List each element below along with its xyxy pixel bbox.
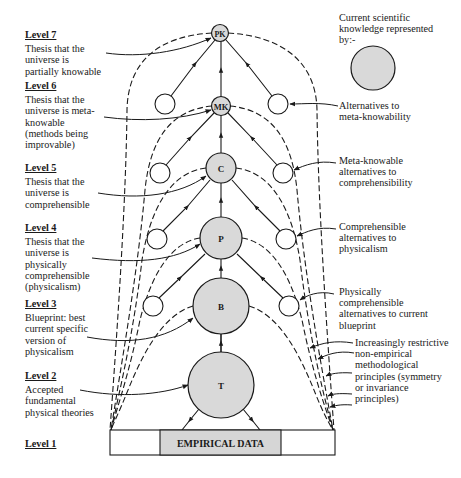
annotation-meta-knowable-alts: Meta-knowable alternatives to comprehens…	[339, 155, 417, 189]
node-label-p: P	[218, 234, 224, 244]
annotation-principles: Increasingly restrictive non-empirical m…	[355, 337, 450, 404]
legend-circle	[351, 46, 395, 90]
alt-circle-right-5	[273, 163, 293, 183]
level-title: Level 6	[25, 80, 105, 91]
level-description: Accepted fundamental physical theories	[25, 384, 95, 418]
aim-oriented-empiricism-diagram: PK MK C P B T EMPIRICAL DATA	[0, 0, 461, 478]
alt-circle-right-6	[268, 94, 288, 114]
annotation-pointers	[290, 104, 354, 408]
level-description: Thesis that the universe is partially kn…	[25, 43, 105, 77]
level-description: Thesis that the universe is meta-knowabl…	[25, 94, 105, 150]
annotation-physically-comprehensible-alts: Physically comprehensible alternatives t…	[339, 286, 429, 331]
level-title: Level 4	[25, 222, 113, 233]
level-title: Level 2	[25, 370, 95, 381]
alt-circle-left-5	[150, 163, 170, 183]
level-6-label: Level 6 Thesis that the universe is meta…	[25, 80, 105, 150]
level-7-label: Level 7 Thesis that the universe is part…	[25, 29, 105, 77]
empirical-data-label: EMPIRICAL DATA	[177, 438, 265, 449]
level-title: Level 7	[25, 29, 105, 40]
level-description: Blueprint: best current specific version…	[25, 312, 105, 357]
legend-text: Current scientific knowledge represented…	[339, 12, 439, 46]
node-label-mk: MK	[214, 102, 229, 112]
level-5-label: Level 5 Thesis that the universe is comp…	[25, 162, 103, 210]
level-title: Level 3	[25, 298, 105, 309]
level-1-label: Level 1	[25, 438, 95, 452]
level-description: Thesis that the universe is comprehensib…	[25, 176, 103, 210]
level-description: Thesis that the universe is physically c…	[25, 236, 113, 292]
alt-circle-left-6	[155, 94, 175, 114]
alt-circle-right-4	[276, 229, 296, 249]
node-label-b: B	[218, 302, 224, 312]
node-label-pk: PK	[214, 30, 226, 39]
node-label-t: T	[218, 381, 224, 391]
annotation-comprehensible-alts: Comprehensible alternatives to physicali…	[339, 221, 409, 255]
node-label-c: C	[218, 164, 225, 174]
alt-circle-left-4	[147, 229, 167, 249]
alt-circle-left-3	[143, 296, 163, 316]
level-3-label: Level 3 Blueprint: best current specific…	[25, 298, 105, 357]
level-title: Level 1	[25, 438, 95, 449]
level-title: Level 5	[25, 162, 103, 173]
level-4-label: Level 4 Thesis that the universe is phys…	[25, 222, 113, 292]
alt-circle-right-3	[279, 296, 299, 316]
level-2-label: Level 2 Accepted fundamental physical th…	[25, 370, 95, 418]
annotation-alt-meta-knowability: Alternatives to meta-knowability	[339, 100, 419, 122]
